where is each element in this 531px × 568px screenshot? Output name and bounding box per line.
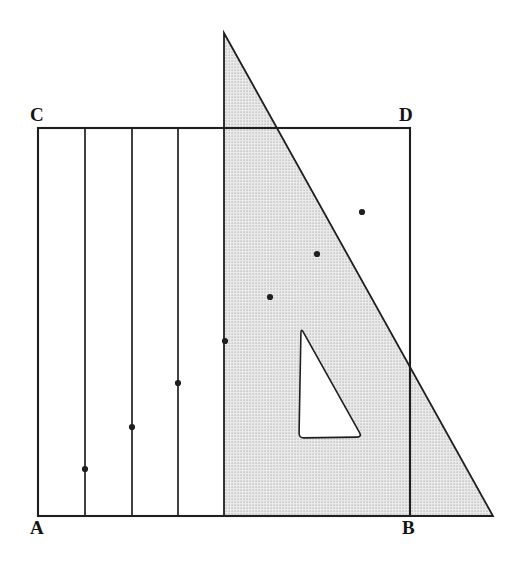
vertex-label-c: C — [30, 105, 44, 124]
diagram-svg — [0, 0, 531, 568]
vertex-label-b: B — [402, 518, 415, 537]
geometry-figure: C D A B — [0, 0, 531, 568]
vertex-label-a: A — [30, 518, 44, 537]
construction-dot — [82, 466, 88, 472]
construction-dot — [222, 338, 228, 344]
construction-dot — [314, 251, 320, 257]
vertex-label-d: D — [399, 105, 413, 124]
construction-dot — [359, 209, 365, 215]
construction-dot — [267, 294, 273, 300]
construction-dot — [175, 380, 181, 386]
construction-dot — [129, 424, 135, 430]
